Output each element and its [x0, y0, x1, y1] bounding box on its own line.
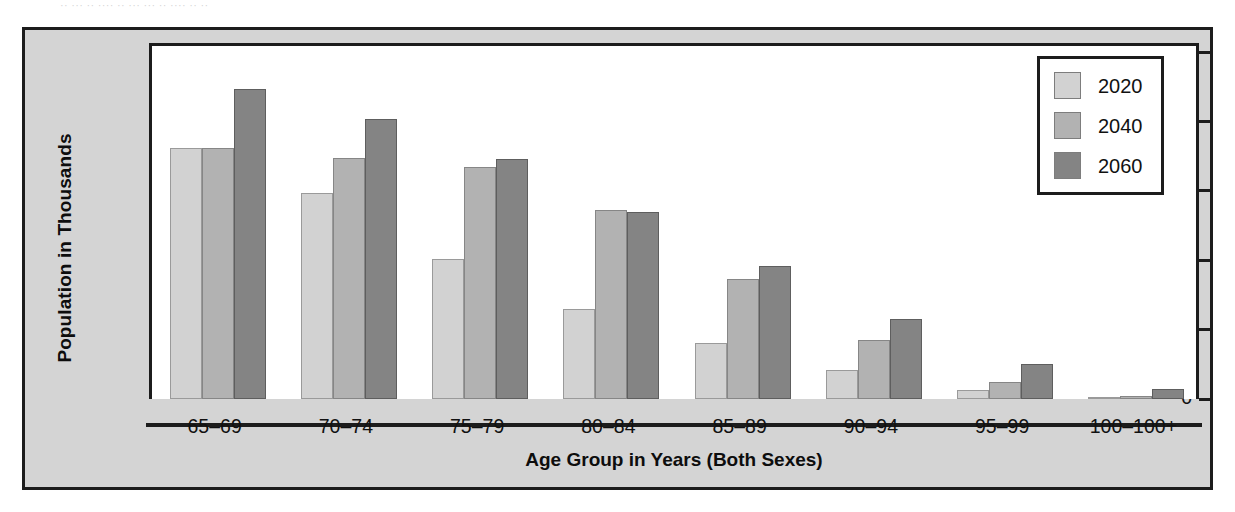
chart-figure: Population in Thousands 05,00010,00015,0…: [22, 27, 1213, 490]
bar-group: [283, 43, 414, 399]
bar-group: [415, 43, 546, 399]
bar-group: [152, 43, 283, 399]
bar: [301, 193, 333, 399]
x-axis-tick-label: 85–89: [713, 415, 767, 438]
bar: [1120, 396, 1152, 399]
bar: [957, 390, 989, 399]
x-axis-tick-label: 100–100+: [1090, 415, 1177, 438]
bar: [727, 279, 759, 399]
bar-group: [677, 43, 808, 399]
bar: [890, 319, 922, 399]
x-axis-tick-label: 65–69: [188, 415, 242, 438]
x-axis-tick-label: 90–94: [844, 415, 898, 438]
bar-group: [808, 43, 939, 399]
legend-swatch: [1054, 152, 1081, 179]
bar: [496, 159, 528, 399]
bar: [826, 370, 858, 399]
bar: [1152, 389, 1184, 399]
legend-item: 2040: [1054, 112, 1143, 139]
bar: [234, 89, 266, 399]
x-axis-title: Age Group in Years (Both Sexes): [149, 449, 1199, 471]
legend-label: 2020: [1098, 76, 1143, 96]
bar: [695, 343, 727, 399]
y-axis-title-label: Population in Thousands: [54, 133, 76, 362]
bar: [1088, 397, 1120, 399]
legend-label: 2060: [1098, 156, 1143, 176]
legend-label: 2040: [1098, 116, 1143, 136]
bar-group: [546, 43, 677, 399]
scan-artifact-text: ·· ··· ·· ···· ·· ··· ··· ·· ···· ·· ··: [60, 0, 600, 9]
chart-legend: 202020402060: [1037, 56, 1164, 195]
y-axis-title: Population in Thousands: [52, 70, 78, 426]
bar: [464, 167, 496, 399]
x-axis-tick-label: 70–74: [319, 415, 373, 438]
bar: [333, 158, 365, 400]
bar: [989, 382, 1021, 399]
x-axis-line: [146, 423, 1202, 427]
legend-swatch: [1054, 72, 1081, 99]
bar: [432, 259, 464, 399]
x-axis-tick-label: 75–79: [450, 415, 504, 438]
bar: [170, 148, 202, 399]
bar: [627, 212, 659, 399]
legend-swatch: [1054, 112, 1081, 139]
bar: [858, 340, 890, 399]
bar: [563, 309, 595, 399]
bar: [202, 148, 234, 399]
legend-item: 2060: [1054, 152, 1143, 179]
x-axis-tick-label: 95–99: [975, 415, 1029, 438]
bar: [365, 119, 397, 399]
legend-item: 2020: [1054, 72, 1143, 99]
bar: [759, 266, 791, 399]
bar: [595, 210, 627, 399]
bar: [1021, 364, 1053, 399]
x-axis-tick-label: 80–84: [581, 415, 635, 438]
